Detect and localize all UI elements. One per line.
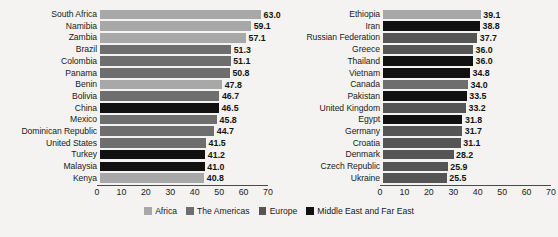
bar-plot-area: 34.0 xyxy=(383,79,558,90)
legend-swatch-icon xyxy=(306,207,314,215)
bar-plot-area: 25.5 xyxy=(383,173,558,184)
bar-plot-area: 50.8 xyxy=(100,67,279,78)
x-axis-tick-label: 20 xyxy=(424,187,434,198)
bar-category-label: Ukraine xyxy=(279,174,383,183)
x-axis-ticks-left: 010203040506070 xyxy=(97,187,268,200)
bar-row: Ukraine25.5 xyxy=(279,173,558,184)
legend-swatch-icon xyxy=(186,207,194,215)
legend-item[interactable]: Middle East and Far East xyxy=(306,206,414,216)
bar-category-label: Panama xyxy=(0,69,100,78)
bar-row: Mexico45.8 xyxy=(0,114,279,125)
bar-value-label: 25.9 xyxy=(448,162,468,172)
bar-plot-area: 34.8 xyxy=(383,67,558,78)
bar-plot-area: 37.7 xyxy=(383,32,558,43)
bar-plot-area: 36.0 xyxy=(383,44,558,55)
bar xyxy=(100,103,219,113)
bar-row: Panama50.8 xyxy=(0,67,279,78)
legend-swatch-icon xyxy=(259,207,267,215)
bar-row: China46.5 xyxy=(0,103,279,114)
bar-value-label: 41.0 xyxy=(205,162,225,172)
legend-label: Europe xyxy=(270,206,298,216)
bar-row: Benin47.8 xyxy=(0,79,279,90)
bar-plot-area: 57.1 xyxy=(100,32,279,43)
bar-row: United States41.5 xyxy=(0,138,279,149)
bar-row: Kenya40.8 xyxy=(0,173,279,184)
bar xyxy=(100,138,206,148)
bar-category-label: Greece xyxy=(279,45,383,54)
bar-value-label: 46.5 xyxy=(219,103,239,113)
bar-rows-right: Ethiopia39.1Iran38.8Russian Federation37… xyxy=(279,9,558,184)
bar-plot-area: 39.1 xyxy=(383,9,558,20)
bar-value-label: 36.0 xyxy=(473,56,493,66)
bar-category-label: Malaysia xyxy=(0,162,100,171)
bar-plot-area: 33.2 xyxy=(383,103,558,114)
bar-value-label: 28.2 xyxy=(454,150,474,160)
bar xyxy=(383,68,470,78)
bar xyxy=(100,91,219,101)
bar-plot-area: 41.2 xyxy=(100,149,279,160)
bar-row: Russian Federation37.7 xyxy=(279,32,558,43)
bar-plot-area: 40.8 xyxy=(100,173,279,184)
x-axis-line-right xyxy=(380,185,551,186)
x-axis-tick-label: 70 xyxy=(263,187,273,198)
bar-category-label: South Africa xyxy=(0,10,100,19)
bar-plot-area: 36.0 xyxy=(383,56,558,67)
bar-plot-area: 51.1 xyxy=(100,56,279,67)
x-axis-tick-label: 50 xyxy=(214,187,224,198)
legend-item[interactable]: Europe xyxy=(259,206,298,216)
bar-value-label: 44.7 xyxy=(214,126,234,136)
x-axis-line-left xyxy=(97,185,268,186)
bar-plot-area: 41.5 xyxy=(100,138,279,149)
bar-row: United Kingdom33.2 xyxy=(279,103,558,114)
bar xyxy=(383,56,473,66)
bar-value-label: 31.8 xyxy=(462,115,482,125)
bar xyxy=(100,126,214,136)
bar-category-label: Vietnam xyxy=(279,69,383,78)
bar-category-label: Brazil xyxy=(0,45,100,54)
bar-value-label: 34.0 xyxy=(468,80,488,90)
bar-value-label: 40.8 xyxy=(204,173,224,183)
bar-category-label: Benin xyxy=(0,80,100,89)
legend-item[interactable]: The Americas xyxy=(186,206,250,216)
bar-category-label: Thailand xyxy=(279,57,383,66)
bar-category-label: Canada xyxy=(279,80,383,89)
bar-value-label: 63.0 xyxy=(261,10,281,20)
bar-row: Dominican Republic44.7 xyxy=(0,126,279,137)
bar xyxy=(100,173,204,183)
bar xyxy=(100,68,230,78)
bar-value-label: 59.1 xyxy=(251,21,271,31)
bar xyxy=(100,80,222,90)
bar-plot-area: 63.0 xyxy=(100,9,279,20)
bar-row: Denmark28.2 xyxy=(279,149,558,160)
legend-label: The Americas xyxy=(197,206,250,216)
bar-category-label: Dominican Republic xyxy=(0,127,100,136)
bar-value-label: 39.1 xyxy=(481,10,501,20)
bar-row: Colombia51.1 xyxy=(0,56,279,67)
x-axis-tick-label: 30 xyxy=(165,187,175,198)
bar xyxy=(100,56,231,66)
bar xyxy=(383,103,466,113)
bar-plot-area: 47.8 xyxy=(100,79,279,90)
bar-category-label: Mexico xyxy=(0,115,100,124)
bar-plot-area: 41.0 xyxy=(100,161,279,172)
bar-value-label: 37.7 xyxy=(477,33,497,43)
bar xyxy=(383,91,467,101)
legend-item[interactable]: Africa xyxy=(144,206,177,216)
bar-value-label: 45.8 xyxy=(217,115,237,125)
bar-value-label: 36.0 xyxy=(473,45,493,55)
bar-plot-area: 59.1 xyxy=(100,21,279,32)
bar-plot-area: 28.2 xyxy=(383,149,558,160)
chart-figure: South Africa63.0Namibia59.1Zambia57.1Bra… xyxy=(0,0,558,237)
bar-category-label: Namibia xyxy=(0,22,100,31)
bar-category-label: Zambia xyxy=(0,33,100,42)
bar-value-label: 50.8 xyxy=(230,68,250,78)
bar-row: Vietnam34.8 xyxy=(279,67,558,78)
x-axis-tick-label: 40 xyxy=(473,187,483,198)
bar-row: Greece36.0 xyxy=(279,44,558,55)
bar-row: Germany31.7 xyxy=(279,126,558,137)
bar xyxy=(383,33,477,43)
bar-plot-area: 44.7 xyxy=(100,126,279,137)
chart-panel-left: South Africa63.0Namibia59.1Zambia57.1Bra… xyxy=(0,0,279,200)
bar xyxy=(100,10,261,20)
bar-plot-area: 38.8 xyxy=(383,21,558,32)
